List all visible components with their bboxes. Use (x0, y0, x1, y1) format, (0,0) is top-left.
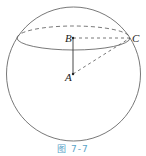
figure-caption: 图 7-7 (0, 142, 146, 155)
point-b (72, 37, 74, 39)
segment-ac (73, 38, 130, 74)
point-a (72, 73, 74, 75)
sphere-diagram (0, 0, 146, 156)
label-b: B (65, 33, 72, 44)
label-a: A (65, 72, 72, 83)
label-c: C (132, 33, 139, 44)
ellipse-back-dashed (17, 26, 130, 38)
ellipse-front (17, 38, 130, 50)
